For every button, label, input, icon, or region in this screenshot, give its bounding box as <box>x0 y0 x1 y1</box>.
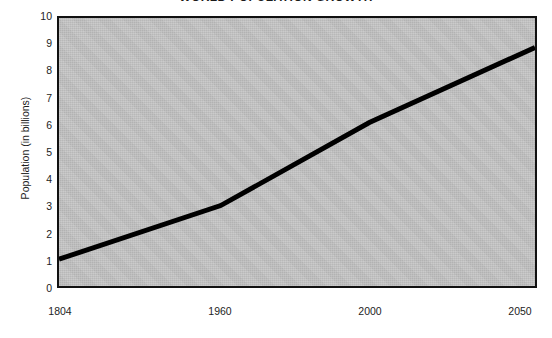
plot-area <box>57 16 537 288</box>
x-axis-tick: 2000 <box>358 305 381 317</box>
x-axis-tick: 2050 <box>508 305 531 317</box>
y-axis-tick: 8 <box>22 64 52 76</box>
x-axis-tick: 1960 <box>208 305 231 317</box>
y-axis-tick: 6 <box>22 119 52 131</box>
y-axis-tick: 5 <box>22 146 52 158</box>
y-axis-tick: 3 <box>22 200 52 212</box>
y-axis-tick: 1 <box>22 255 52 267</box>
y-axis-tick: 0 <box>22 282 52 294</box>
series-polyline <box>59 47 535 259</box>
y-axis-tick: 9 <box>22 37 52 49</box>
y-axis-tick: 10 <box>22 10 52 22</box>
chart-figure: WORLD POPULATION GROWTH Population (in b… <box>0 0 552 338</box>
y-axis-tick: 7 <box>22 92 52 104</box>
chart-title: WORLD POPULATION GROWTH <box>0 0 552 3</box>
population-line-series <box>59 18 535 286</box>
x-axis-tick: 1804 <box>48 305 71 317</box>
y-axis-tick: 4 <box>22 173 52 185</box>
y-axis-tick: 2 <box>22 228 52 240</box>
